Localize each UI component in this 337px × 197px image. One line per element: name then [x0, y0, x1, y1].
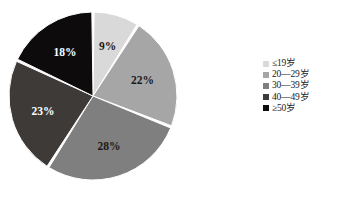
legend-swatch-icon	[263, 94, 269, 100]
pie-slice-label: 18%	[54, 46, 77, 58]
pie-chart-figure: 9%22%28%23%18% ≤19岁20—29岁30—39岁40—49岁≥50…	[0, 0, 337, 197]
pie-slice-label: 9%	[99, 40, 116, 52]
legend-item-label: 20—29岁	[272, 69, 309, 80]
legend-swatch-icon	[263, 83, 269, 89]
chart-legend: ≤19岁20—29岁30—39岁40—49岁≥50岁	[263, 58, 337, 114]
legend-swatch-icon	[263, 105, 269, 111]
pie-slices	[9, 12, 177, 180]
legend-item[interactable]: 40—49岁	[263, 92, 337, 103]
pie-slice-label: 22%	[131, 74, 154, 86]
legend-item-label: ≥50岁	[272, 103, 296, 114]
legend-item-label: 40—49岁	[272, 92, 309, 103]
legend-swatch-icon	[263, 61, 269, 67]
legend-swatch-icon	[263, 72, 269, 78]
legend-item[interactable]: 20—29岁	[263, 69, 337, 80]
pie-slice-label: 28%	[98, 140, 121, 152]
pie-slice-label: 23%	[31, 105, 54, 117]
legend-item-label: ≤19岁	[272, 58, 296, 69]
legend-item[interactable]: 30—39岁	[263, 80, 337, 91]
legend-item-label: 30—39岁	[272, 80, 309, 91]
legend-item[interactable]: ≤19岁	[263, 58, 337, 69]
legend-item[interactable]: ≥50岁	[263, 103, 337, 114]
